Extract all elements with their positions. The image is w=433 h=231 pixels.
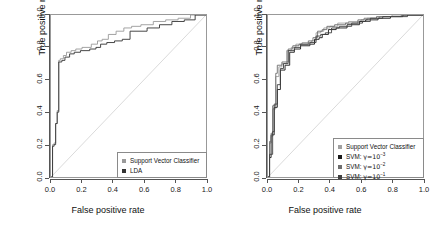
y-tick-label: 0.0 — [0, 172, 44, 181]
y-axis-label-wrap-left: True positive rate — [8, 14, 22, 178]
x-tick — [207, 179, 208, 183]
x-tick — [81, 179, 82, 183]
legend-marker-gamma-1e2 — [338, 165, 342, 169]
y-axis-label-wrap-right: True positive rate — [225, 14, 239, 178]
legend-marker-lda — [122, 169, 126, 173]
y-tick — [262, 112, 266, 113]
x-tick-label: 0.4 — [315, 185, 345, 194]
legend-left: Support Vector Classifier LDA — [117, 152, 207, 178]
x-tick-label: 0.6 — [129, 185, 159, 194]
y-axis-label-right: True positive rate — [252, 0, 266, 110]
legend-label-exponent: −2 — [380, 162, 385, 167]
x-tick-label: 0.8 — [378, 185, 408, 194]
x-tick-label: 0.4 — [98, 185, 128, 194]
x-tick-label: 0.2 — [66, 185, 96, 194]
y-tick-label: 0.2 — [0, 139, 44, 148]
legend-label-svc: Support Vector Classifier — [346, 142, 415, 151]
legend-label-base: γ=10 — [363, 173, 380, 180]
legend-label-prefix: SVM: — [346, 163, 361, 170]
legend-label-exponent: −1 — [380, 172, 385, 177]
legend-label-prefix: SVM: — [346, 173, 361, 180]
x-tick — [144, 179, 145, 183]
x-axis-label-right: False positive rate — [217, 205, 433, 215]
y-axis-left — [49, 14, 50, 178]
y-tick-label-text: 0.2 — [251, 138, 260, 148]
x-tick-label: 0.2 — [283, 185, 313, 194]
x-tick-label: 0.0 — [252, 185, 282, 194]
x-tick-label: 1.0 — [409, 185, 433, 194]
legend-right: Support Vector Classifier SVM: γ=10−3 SV… — [333, 138, 424, 178]
legend-label-base: γ=10 — [363, 153, 380, 160]
x-tick — [298, 179, 299, 183]
legend-marker-gamma-1e1 — [338, 175, 342, 179]
x-tick-label: 0.6 — [346, 185, 376, 194]
x-tick-label: 0.8 — [161, 185, 191, 194]
legend-label-gamma-1e3: SVM: γ=10−3 — [346, 152, 385, 161]
legend-label-prefix: SVM: — [346, 153, 361, 160]
legend-item: SVM: γ=10−1 — [338, 172, 419, 181]
x-tick — [424, 179, 425, 183]
roc-figure: 0.00.20.40.60.81.00.00.20.40.60.81.0 Tru… — [0, 0, 433, 231]
legend-label-gamma-1e1: SVM: γ=10−1 — [346, 172, 385, 181]
legend-label-exponent: −3 — [380, 152, 385, 157]
x-axis-label-left: False positive rate — [0, 205, 216, 215]
legend-label-lda: LDA — [130, 166, 142, 175]
y-tick — [45, 112, 49, 113]
y-axis-right — [266, 14, 267, 178]
legend-marker-gamma-1e3 — [338, 155, 342, 159]
panel-left: 0.00.20.40.60.81.00.00.20.40.60.81.0 Tru… — [0, 0, 216, 231]
legend-item: Support Vector Classifier — [338, 142, 419, 151]
x-axis-left — [50, 179, 207, 180]
y-tick-label-text: 0.2 — [34, 138, 43, 148]
legend-item: SVM: γ=10−3 — [338, 152, 419, 161]
legend-item: Support Vector Classifier — [122, 156, 202, 165]
legend-item: SVM: γ=10−2 — [338, 162, 419, 171]
y-tick-label-text: 0.0 — [251, 171, 260, 181]
x-tick — [267, 179, 268, 183]
y-tick — [45, 145, 49, 146]
legend-item: LDA — [122, 166, 202, 175]
x-tick — [175, 179, 176, 183]
y-tick — [262, 145, 266, 146]
y-tick-label: 0.0 — [217, 172, 261, 181]
y-tick-label: 0.2 — [217, 139, 261, 148]
legend-marker-svc — [338, 145, 342, 149]
y-tick — [262, 178, 266, 179]
legend-marker-svc — [122, 159, 126, 163]
x-tick-label: 0.0 — [35, 185, 65, 194]
x-tick — [112, 179, 113, 183]
legend-label-svc: Support Vector Classifier — [130, 156, 199, 165]
legend-label-gamma-1e2: SVM: γ=10−2 — [346, 162, 385, 171]
x-tick — [329, 179, 330, 183]
y-axis-label-left: True positive rate — [35, 0, 49, 110]
x-tick — [50, 179, 51, 183]
panel-right: 0.00.20.40.60.81.00.00.20.40.60.81.0 Tru… — [217, 0, 433, 231]
y-tick — [45, 178, 49, 179]
legend-label-base: γ=10 — [363, 163, 380, 170]
y-tick-label-text: 0.0 — [34, 171, 43, 181]
